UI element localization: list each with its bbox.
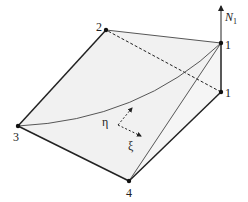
node-1-top <box>219 41 223 45</box>
label-eta: η <box>102 115 108 129</box>
label-xi: ξ <box>128 139 134 153</box>
node-3 <box>16 124 20 128</box>
node-4 <box>127 179 131 183</box>
node-2 <box>104 28 108 32</box>
label-node-2: 2 <box>96 20 102 34</box>
label-n1: N1 <box>224 10 237 26</box>
node-1 <box>219 90 223 94</box>
label-node-3: 3 <box>13 130 19 144</box>
label-node-1: 1 <box>225 86 231 100</box>
label-node-4: 4 <box>126 186 132 200</box>
shape-function-diagram: 2 1 1 3 4 N1 η ξ <box>0 0 248 202</box>
label-node-1-top: 1 <box>225 38 231 52</box>
